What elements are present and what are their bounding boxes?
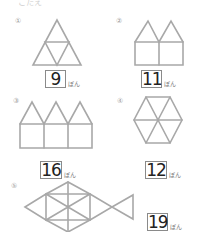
unit-4: ぼん [169, 170, 181, 179]
stick-figures [0, 0, 203, 232]
unit-1: ぼん [68, 79, 80, 88]
figure-3-houses [20, 102, 92, 148]
problem-1-label: ① [15, 17, 21, 25]
figure-5-fish [25, 182, 133, 232]
figure-1-triangle [33, 20, 81, 65]
unit-3: ぼん [64, 170, 76, 179]
unit-5: ぼん [170, 222, 182, 231]
unit-2: ぼん [164, 79, 176, 88]
problem-3-label: ③ [13, 97, 19, 105]
answer-box-3[interactable]: 16 [40, 161, 62, 179]
problem-2-label: ② [116, 17, 122, 25]
figure-2-houses [135, 21, 183, 65]
problem-5-label: ⑤ [11, 182, 17, 190]
figure-4-hexagon [134, 97, 182, 143]
answer-box-4[interactable]: 12 [145, 161, 167, 179]
answer-box-5[interactable]: 19 [147, 213, 168, 231]
answer-box-1[interactable]: 9 [45, 70, 66, 88]
answer-box-2[interactable]: 11 [141, 70, 162, 88]
problem-4-label: ④ [117, 97, 123, 105]
